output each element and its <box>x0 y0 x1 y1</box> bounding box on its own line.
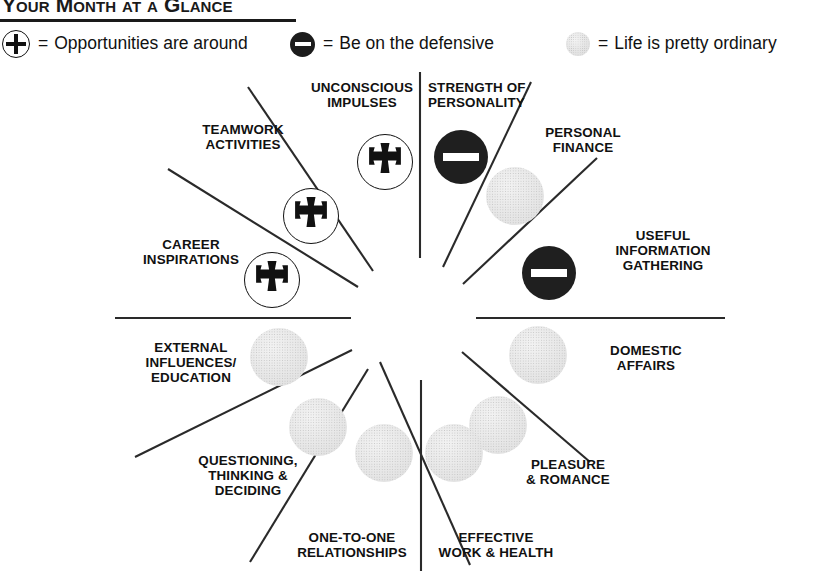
sector-label-one-to-one-relationships: ONE-TO-ONE RELATIONSHIPS <box>287 530 417 560</box>
legend-equals-sign: = <box>598 35 608 53</box>
month-at-a-glance-wheel: UNCONSCIOUS IMPULSES TEAMWORK ACTIVITIES… <box>0 62 827 571</box>
minus-bar <box>443 153 479 161</box>
sector-label-external-influences-education: EXTERNAL INFLUENCES/ EDUCATION <box>131 340 251 386</box>
legend: = Opportunities are around = Be on the d… <box>0 26 827 62</box>
minus-bar <box>531 269 567 277</box>
token-defensive-useful-information-gathering <box>522 246 576 300</box>
minus-in-circle-icon <box>290 32 315 57</box>
plus-vertical-bar <box>14 34 17 54</box>
wheel-spokes <box>0 62 827 571</box>
token-ordinary-domestic-affairs <box>509 326 567 384</box>
legend-item-ordinary: = Life is pretty ordinary <box>566 26 777 62</box>
sector-label-pleasure-and-romance: PLEASURE & ROMANCE <box>510 457 626 487</box>
page-title: Your Month at a Glance <box>2 0 233 16</box>
token-opportunity-teamwork-activities <box>283 188 339 244</box>
legend-item-defensive: = Be on the defensive <box>290 26 494 62</box>
sector-label-career-inspirations: CAREER INSPIRATIONS <box>133 237 249 267</box>
legend-label-ordinary: Life is pretty ordinary <box>614 35 776 53</box>
plus-in-circle-icon <box>2 30 30 58</box>
token-ordinary-external-influences-education <box>250 328 308 386</box>
sector-label-unconscious-impulses: UNCONSCIOUS IMPULSES <box>304 80 420 110</box>
token-ordinary-effective-work-and-health <box>425 424 483 482</box>
token-opportunity-unconscious-impulses <box>357 134 413 190</box>
token-ordinary-one-to-one-relationships <box>355 424 413 482</box>
sector-label-strength-of-personality: STRENGTH OF PERSONALITY <box>428 80 553 110</box>
cross-pattee-icon <box>284 189 338 243</box>
token-ordinary-questioning-thinking-deciding <box>289 398 347 456</box>
title-underline-rule <box>0 19 296 22</box>
legend-label-defensive: Be on the defensive <box>339 35 494 53</box>
sector-label-teamwork-activities: TEAMWORK ACTIVITIES <box>185 122 301 152</box>
sector-label-effective-work-and-health: EFFECTIVE WORK & HEALTH <box>429 530 563 560</box>
token-ordinary-personal-finance <box>486 167 544 225</box>
cross-pattee-icon <box>358 135 412 189</box>
legend-equals-sign: = <box>323 35 333 53</box>
legend-equals-sign: = <box>38 35 48 53</box>
gray-dotted-circle-icon <box>566 32 590 56</box>
legend-label-opportunity: Opportunities are around <box>54 35 248 53</box>
sector-label-domestic-affairs: DOMESTIC AFFAIRS <box>590 343 702 373</box>
cross-pattee-icon <box>245 253 299 307</box>
minus-bar <box>295 42 311 46</box>
page-header: Your Month at a Glance <box>0 0 827 22</box>
token-defensive-strength-of-personality <box>434 130 488 184</box>
legend-item-opportunity: = Opportunities are around <box>2 26 248 62</box>
sector-label-questioning-thinking-deciding: QUESTIONING, THINKING & DECIDING <box>185 453 311 499</box>
sector-label-personal-finance: PERSONAL FINANCE <box>530 125 636 155</box>
sector-label-useful-information-gathering: USEFUL INFORMATION GATHERING <box>608 228 718 274</box>
token-opportunity-career-inspirations <box>244 252 300 308</box>
